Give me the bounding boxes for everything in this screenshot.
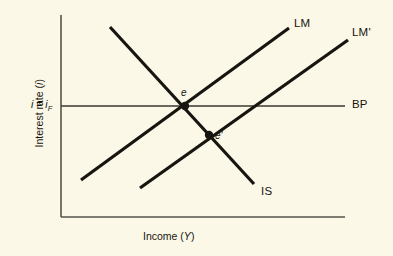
x-axis-title-text: Income <box>143 230 177 242</box>
curve-label-lm: LM <box>294 18 310 30</box>
x-axis-title: Income (Y) <box>143 231 194 242</box>
x-axis-symbol: Y <box>184 230 191 242</box>
y-axis-title: Interest rate (i) <box>34 38 45 188</box>
curve-label-lm-prime: LM' <box>352 27 371 39</box>
point-marker-e <box>181 102 189 110</box>
curve-label-is: IS <box>261 186 272 198</box>
point-label-e-prime: e' <box>215 131 222 141</box>
is-lm-bp-diagram: LM LM' BP IS e e' Interest rate (i) Inco… <box>0 0 393 256</box>
curve-label-bp: BP <box>352 99 368 111</box>
y-axis-symbol: i <box>33 83 45 85</box>
point-label-e: e <box>181 88 187 98</box>
bp-level-label: i = iF <box>31 99 52 113</box>
bp-level-subscript: F <box>48 104 53 113</box>
plot-area <box>0 0 393 256</box>
y-axis-title-text: Interest rate (i) <box>33 79 45 147</box>
bp-level-equals: = <box>33 98 45 110</box>
point-marker-e-prime <box>205 131 213 139</box>
